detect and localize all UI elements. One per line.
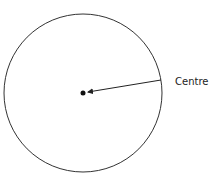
- centre-label: Centre: [175, 76, 208, 87]
- centre-point: [81, 91, 86, 96]
- circle-diagram: Centre: [0, 0, 212, 177]
- centre-pointer-arrow: [88, 80, 161, 92]
